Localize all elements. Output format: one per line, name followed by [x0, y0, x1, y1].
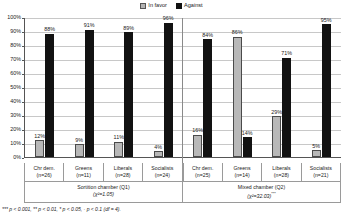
legend-label-in-favor: In favor: [148, 3, 167, 9]
bar-fill: [312, 150, 321, 157]
bar-favor[interactable]: 4%: [154, 17, 163, 157]
bar-value-label: 4%: [154, 145, 162, 150]
bar-value-label: 84%: [202, 33, 213, 38]
bar-value-label: 95%: [321, 18, 332, 23]
bar-value-label: 9%: [75, 138, 83, 143]
x-axis-category-cell: Socialists(n=21): [302, 163, 341, 182]
bar-value-label: 5%: [312, 144, 320, 149]
bar-fill: [45, 34, 54, 157]
bar-group: 12%88%9%91%11%89%4%96%: [25, 18, 183, 157]
x-axis-party-label: Chr dem.: [184, 165, 222, 172]
bar-group: 16%84%86%14%29%71%5%95%: [183, 18, 341, 157]
bar-category: 9%91%: [65, 18, 105, 157]
x-axis-group-cells: Chr dem.(n=26)Greens(n=11)Liberals(n=28)…: [24, 163, 183, 182]
bar-favor[interactable]: 86%: [233, 17, 242, 157]
legend-label-against: Against: [184, 3, 203, 9]
x-axis-party-label: Liberals: [262, 165, 300, 172]
bar-against[interactable]: 89%: [124, 17, 133, 157]
significance-stars: ***: [271, 191, 276, 196]
bar-against[interactable]: 91%: [85, 17, 94, 157]
bar-category: 16%84%: [183, 18, 223, 157]
x-axis-party-label: Socialists: [143, 165, 181, 172]
plot-area: 12%88%9%91%11%89%4%96%16%84%86%14%29%71%…: [24, 18, 341, 158]
bar-fill: [322, 24, 331, 157]
x-axis-category-cell: Liberals(n=28): [104, 163, 143, 182]
bar-value-label: 89%: [123, 26, 134, 31]
bar-against[interactable]: 84%: [203, 17, 212, 157]
bar-favor[interactable]: 5%: [312, 17, 321, 157]
x-axis-sample-size: (n=21): [302, 172, 340, 179]
bar-value-label: 86%: [232, 30, 243, 35]
chart-figure: In favor Against 100%90%80%70%60%50%40%3…: [0, 0, 343, 221]
bar-fill: [164, 23, 173, 157]
bar-against[interactable]: 88%: [45, 17, 54, 157]
x-axis-sample-size: (n=26): [25, 172, 63, 179]
bar-fill: [85, 30, 94, 157]
footnote: *** p < 0.001, ** p < 0.01, * p < 0.05, …: [2, 207, 121, 212]
bar-value-label: 11%: [114, 135, 124, 140]
bar-fill: [35, 140, 44, 157]
bar-value-label: 71%: [281, 51, 292, 56]
bar-against[interactable]: 96%: [164, 17, 173, 157]
x-axis-category-cell: Chr dem.(n=26): [24, 163, 64, 182]
bar-category: 86%14%: [223, 18, 263, 157]
bar-favor[interactable]: 29%: [272, 17, 281, 157]
bar-against[interactable]: 95%: [322, 17, 331, 157]
x-axis-party-label: Greens: [64, 165, 102, 172]
y-axis: 100%90%80%70%60%50%40%30%20%10%0%: [0, 15, 24, 163]
bar-against[interactable]: 14%: [243, 17, 252, 157]
group-name: Sortition chamber (Q1): [25, 184, 182, 191]
bar-favor[interactable]: 11%: [114, 17, 123, 157]
x-axis-party-label: Socialists: [302, 165, 340, 172]
group-statistic: (χ²=1.05): [25, 191, 182, 198]
x-axis-sample-size: (n=28): [104, 172, 142, 179]
x-axis-sample-size: (n=24): [143, 172, 181, 179]
y-axis-tick-label: 90%: [10, 29, 21, 34]
bar-favor[interactable]: 9%: [75, 17, 84, 157]
y-axis-tick-label: 30%: [10, 113, 21, 118]
y-axis-tick-label: 40%: [10, 99, 21, 104]
x-axis-category-cell: Liberals(n=28): [262, 163, 301, 182]
bar-fill: [203, 39, 212, 157]
x-axis-party-label: Liberals: [104, 165, 142, 172]
x-axis-category-cell: Chr dem.(n=25): [183, 163, 223, 182]
bar-favor[interactable]: 12%: [35, 17, 44, 157]
y-axis-tick-label: 50%: [10, 85, 21, 90]
x-axis-sample-size: (n=11): [64, 172, 102, 179]
bar-value-label: 96%: [163, 16, 174, 21]
bar-fill: [154, 151, 163, 157]
x-axis-group-cells: Chr dem.(n=25)Greens(n=14)Liberals(n=28)…: [183, 163, 342, 182]
x-axis: Chr dem.(n=26)Greens(n=11)Liberals(n=28)…: [24, 163, 341, 203]
x-axis-sample-size: (n=14): [223, 172, 261, 179]
bar-value-label: 12%: [34, 134, 45, 139]
x-axis-party-label: Chr dem.: [25, 165, 63, 172]
plot-wrapper: 100%90%80%70%60%50%40%30%20%10%0% 12%88%…: [0, 15, 343, 163]
x-axis-group-label: Mixed chamber (Q2)(χ²=32.03)***: [183, 182, 341, 203]
bar-against[interactable]: 71%: [282, 17, 291, 157]
bar-value-label: 29%: [271, 110, 282, 115]
x-axis-category-cell: Greens(n=11): [64, 163, 103, 182]
bar-fill: [243, 137, 252, 157]
legend-swatch-against-icon: [176, 3, 182, 9]
bar-value-label: 14%: [242, 131, 253, 136]
bar-fill: [124, 32, 133, 157]
x-axis-sample-size: (n=28): [262, 172, 300, 179]
x-axis-category-cell: Socialists(n=24): [143, 163, 182, 182]
bar-value-label: 88%: [44, 27, 55, 32]
x-axis-group-row: Sortition chamber (Q1)(χ²=1.05)Mixed cha…: [24, 182, 341, 203]
legend-item-in-favor: In favor: [140, 3, 167, 9]
bar-value-label: 16%: [192, 128, 203, 133]
x-axis-group-label: Sortition chamber (Q1)(χ²=1.05): [24, 182, 183, 203]
y-axis-tick-label: 100%: [7, 15, 21, 20]
bar-category: 5%95%: [302, 18, 342, 157]
bar-category: 12%88%: [25, 18, 65, 157]
bar-fill: [272, 116, 281, 157]
group-name: Mixed chamber (Q2): [183, 184, 340, 191]
bar-fill: [282, 58, 291, 157]
x-axis-category-cell: Greens(n=14): [223, 163, 262, 182]
bar-favor[interactable]: 16%: [193, 17, 202, 157]
bar-groups: 12%88%9%91%11%89%4%96%16%84%86%14%29%71%…: [25, 18, 341, 157]
bar-fill: [114, 142, 123, 157]
legend-item-against: Against: [176, 3, 203, 9]
x-axis-category-row: Chr dem.(n=26)Greens(n=11)Liberals(n=28)…: [24, 163, 341, 182]
